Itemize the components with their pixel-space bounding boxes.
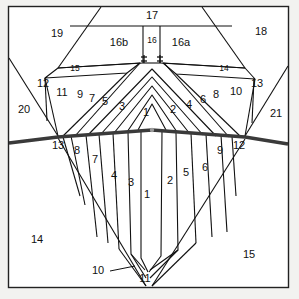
label-upper-14: 14 — [219, 63, 229, 73]
label-block-21: 21 — [270, 107, 282, 119]
label-lower-12: 12 — [233, 139, 245, 151]
label-block-16: 16 — [147, 35, 157, 45]
label-lower-2: 2 — [167, 174, 173, 186]
label-upper-9: 9 — [77, 88, 83, 100]
label-block-16b: 16b — [110, 36, 128, 48]
label-block-17: 17 — [146, 9, 158, 21]
label-upper-1: 1 — [143, 106, 149, 118]
label-lower-10: 10 — [92, 264, 104, 276]
label-upper-13: 13 — [251, 77, 263, 89]
label-upper-3: 3 — [119, 100, 125, 112]
label-block-18: 18 — [255, 25, 267, 37]
label-lower-11: 11 — [139, 272, 150, 284]
label-upper-5: 5 — [102, 95, 108, 107]
cross-section-diagram: 1 2 3 4 5 6 7 8 9 10 11 12 13 14 15 1 2 … — [0, 0, 299, 299]
label-upper-15: 15 — [70, 63, 80, 73]
label-lower-3: 3 — [128, 176, 134, 188]
unconformity-apex-node — [150, 128, 154, 132]
label-lower-8: 8 — [74, 144, 80, 156]
label-upper-10: 10 — [230, 85, 242, 97]
label-upper-12: 12 — [37, 77, 49, 89]
label-lower-4: 4 — [111, 169, 117, 181]
label-block-14: 14 — [31, 233, 43, 245]
label-lower-9: 9 — [217, 144, 223, 156]
label-upper-11: 11 — [56, 86, 67, 98]
figure-root: 1 2 3 4 5 6 7 8 9 10 11 12 13 14 15 1 2 … — [0, 0, 299, 299]
label-upper-2: 2 — [170, 103, 176, 115]
label-lower-6: 6 — [202, 161, 208, 173]
label-lower-5: 5 — [183, 166, 189, 178]
label-block-19: 19 — [51, 27, 63, 39]
label-upper-6: 6 — [200, 93, 206, 105]
label-block-16a: 16a — [172, 36, 191, 48]
label-lower-7: 7 — [92, 153, 98, 165]
label-block-20: 20 — [18, 103, 30, 115]
label-upper-4: 4 — [186, 98, 192, 110]
label-block-15: 15 — [243, 248, 255, 260]
label-lower-13: 13 — [52, 139, 64, 151]
label-lower-1: 1 — [144, 188, 150, 200]
label-upper-7: 7 — [89, 92, 95, 104]
panel-background — [8, 6, 289, 288]
label-upper-8: 8 — [213, 88, 219, 100]
